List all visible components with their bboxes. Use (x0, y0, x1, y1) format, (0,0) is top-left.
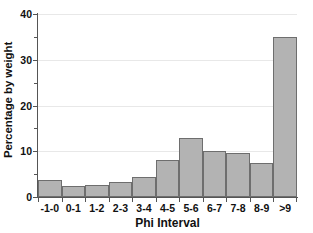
bar (132, 177, 156, 197)
bar (226, 153, 250, 197)
x-tick-label: 1-2 (89, 202, 104, 214)
bar (109, 182, 133, 197)
x-tick-label: 3-4 (136, 202, 151, 214)
bars-series (38, 14, 297, 197)
y-axis-title: Percentage by weight (0, 0, 16, 200)
y-axis-title-label: Percentage by weight (2, 42, 14, 158)
x-tick-label: 4-5 (160, 202, 175, 214)
x-tick-label: 0-1 (66, 202, 81, 214)
y-axis-tick-labels: 010203040 (16, 0, 35, 233)
bar-chart-figure: Percentage by weight 010203040 -1-00-11-… (0, 0, 313, 233)
bar (85, 185, 109, 197)
x-tick-label: 7-8 (231, 202, 246, 214)
y-tick-label: 40 (20, 8, 32, 20)
bar (179, 138, 203, 197)
bar (62, 186, 86, 197)
bar (203, 151, 227, 197)
bar (38, 180, 62, 197)
y-tick-label: 0 (26, 191, 32, 203)
x-axis-tick-labels: -1-00-11-22-33-44-55-66-77-88-9>9 (38, 202, 297, 216)
x-tick-label: 6-7 (207, 202, 222, 214)
x-tick-label: 8-9 (254, 202, 269, 214)
y-tick-label: 10 (20, 145, 32, 157)
bar (250, 163, 274, 197)
x-tick-label: 5-6 (183, 202, 198, 214)
bar (273, 37, 297, 197)
x-tick-label: -1-0 (40, 202, 59, 214)
x-axis-title: Phi Interval (38, 216, 297, 230)
y-tick-label: 20 (20, 100, 32, 112)
y-tick-label: 30 (20, 54, 32, 66)
plot-area (38, 14, 297, 197)
bar (156, 160, 180, 197)
x-tick-label: >9 (279, 202, 291, 214)
x-tick-label: 2-3 (113, 202, 128, 214)
